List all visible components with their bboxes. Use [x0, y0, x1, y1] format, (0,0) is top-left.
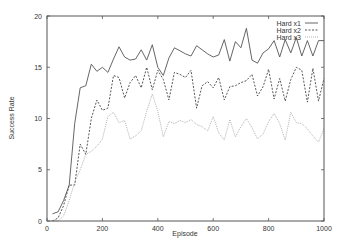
x-tick-label: 200 — [97, 225, 109, 232]
series-layer — [53, 28, 325, 221]
series-line-2 — [53, 67, 325, 221]
x-tick-label: 600 — [207, 225, 219, 232]
success-rate-chart: 02004006008001000 05101520 Episode Succe… — [0, 0, 345, 249]
x-axis-label: Episode — [172, 230, 197, 238]
legend: Hard x1Hard x2Hard x3 — [276, 20, 318, 41]
y-tick-label: 20 — [34, 13, 42, 20]
y-tick-label: 10 — [34, 115, 42, 122]
y-tick-label: 0 — [38, 218, 42, 225]
x-tick-label: 0 — [45, 225, 49, 232]
y-axis-label: Success Rate — [8, 96, 15, 139]
series-line-1 — [53, 28, 325, 214]
y-tick-label: 5 — [38, 166, 42, 173]
y-axis-ticks: 05101520 — [34, 13, 324, 225]
legend-label: Hard x1 — [276, 20, 301, 27]
x-tick-label: 1000 — [316, 225, 332, 232]
x-tick-label: 400 — [152, 225, 164, 232]
legend-label: Hard x2 — [276, 27, 301, 34]
legend-label: Hard x3 — [276, 34, 301, 41]
y-tick-label: 15 — [34, 64, 42, 71]
plot-frame — [47, 16, 324, 221]
x-tick-label: 800 — [263, 225, 275, 232]
